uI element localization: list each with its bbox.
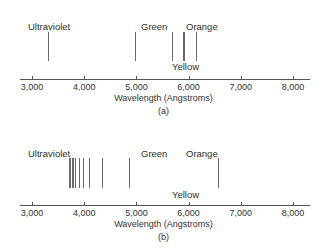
wavelength-axis bbox=[20, 79, 310, 80]
tick-label: 7,000 bbox=[230, 208, 253, 218]
tick-label: 6,000 bbox=[177, 208, 200, 218]
axis-tick bbox=[32, 76, 33, 79]
emission-line bbox=[75, 158, 76, 188]
emission-line bbox=[73, 158, 74, 188]
tick-label: 3,000 bbox=[21, 208, 44, 218]
axis-tick bbox=[136, 76, 137, 79]
label-ultraviolet: Ultraviolet bbox=[28, 21, 70, 32]
emission-line bbox=[83, 158, 84, 188]
axis-tick bbox=[293, 76, 294, 79]
axis-tick bbox=[189, 76, 190, 79]
panel-caption: (b) bbox=[0, 232, 327, 242]
axis-title: Wavelength (Angstroms) bbox=[0, 93, 327, 103]
tick-label: 5,000 bbox=[125, 82, 148, 92]
tick-label: 5,000 bbox=[125, 208, 148, 218]
spectrum-panel-b: Ultraviolet Green Orange Yellow 3,0004,0… bbox=[0, 125, 327, 250]
axis-title: Wavelength (Angstroms) bbox=[0, 219, 327, 229]
axis-tick bbox=[136, 202, 137, 205]
axis-tick bbox=[293, 202, 294, 205]
axis-tick bbox=[189, 202, 190, 205]
emission-line bbox=[196, 32, 197, 61]
label-yellow: Yellow bbox=[172, 61, 199, 72]
emission-line bbox=[172, 32, 173, 61]
tick-label: 4,000 bbox=[73, 208, 96, 218]
axis-tick bbox=[241, 202, 242, 205]
panel-caption: (a) bbox=[0, 106, 327, 116]
tick-label: 8,000 bbox=[282, 82, 305, 92]
tick-label: 8,000 bbox=[282, 208, 305, 218]
tick-label: 6,000 bbox=[177, 82, 200, 92]
label-ultraviolet: Ultraviolet bbox=[28, 148, 70, 159]
label-green: Green bbox=[141, 21, 167, 32]
spectrum-panel-a: Ultraviolet Green Orange Yellow 3,0004,0… bbox=[0, 0, 327, 125]
label-orange: Orange bbox=[186, 21, 218, 32]
tick-label: 3,000 bbox=[21, 82, 44, 92]
axis-tick bbox=[84, 76, 85, 79]
emission-line bbox=[129, 158, 130, 188]
wavelength-axis bbox=[20, 205, 310, 206]
label-yellow: Yellow bbox=[172, 189, 199, 200]
emission-line bbox=[79, 158, 80, 188]
emission-line bbox=[89, 158, 90, 188]
tick-label: 4,000 bbox=[73, 82, 96, 92]
emission-line bbox=[184, 32, 185, 61]
axis-tick bbox=[32, 202, 33, 205]
emission-line bbox=[102, 158, 103, 188]
tick-label: 7,000 bbox=[230, 82, 253, 92]
emission-line bbox=[135, 32, 136, 61]
label-orange: Orange bbox=[186, 148, 218, 159]
label-green: Green bbox=[141, 148, 167, 159]
axis-tick bbox=[241, 76, 242, 79]
axis-tick bbox=[84, 202, 85, 205]
emission-line bbox=[48, 32, 49, 61]
emission-line bbox=[218, 158, 219, 188]
